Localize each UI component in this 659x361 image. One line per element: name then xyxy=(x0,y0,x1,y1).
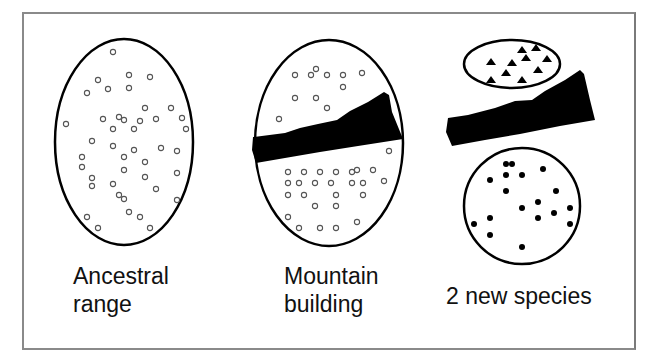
individual-marker xyxy=(501,69,511,76)
individual-marker xyxy=(89,175,94,180)
individual-marker xyxy=(89,183,94,188)
individual-marker xyxy=(179,115,184,120)
individual-marker xyxy=(487,232,493,238)
individual-marker xyxy=(503,172,509,178)
individual-marker xyxy=(317,169,322,174)
individual-marker xyxy=(126,209,131,214)
label-line: Ancestral xyxy=(73,262,169,290)
individual-marker xyxy=(285,169,290,174)
individual-marker xyxy=(507,59,517,66)
individual-marker xyxy=(340,84,345,89)
individual-marker xyxy=(540,166,546,172)
individual-marker xyxy=(174,170,179,175)
individual-marker xyxy=(276,116,281,121)
individual-marker xyxy=(131,147,136,152)
individual-marker xyxy=(359,70,364,75)
individual-marker xyxy=(313,95,318,100)
individual-marker xyxy=(126,72,131,77)
individual-marker xyxy=(121,154,126,159)
ancestral-range-panel xyxy=(55,39,193,245)
individual-marker xyxy=(137,214,142,219)
new-species-panel xyxy=(446,40,595,264)
individual-marker xyxy=(95,77,100,82)
individual-marker xyxy=(79,164,84,169)
individual-marker xyxy=(285,192,290,197)
label-line: range xyxy=(73,290,169,318)
individual-marker xyxy=(519,205,525,211)
individual-marker xyxy=(340,72,345,77)
individual-marker xyxy=(142,159,147,164)
individual-marker xyxy=(110,143,115,148)
individual-marker xyxy=(503,188,509,194)
individual-marker xyxy=(126,85,131,90)
individual-marker xyxy=(317,225,322,230)
individual-marker xyxy=(333,192,338,197)
individual-marker xyxy=(517,46,527,53)
individual-marker xyxy=(519,172,525,178)
individual-marker xyxy=(292,72,297,77)
individual-marker xyxy=(354,219,359,224)
individual-marker xyxy=(89,138,94,143)
label-line: Mountain xyxy=(284,262,379,290)
individual-marker xyxy=(292,95,297,100)
individual-marker xyxy=(168,105,173,110)
individual-marker xyxy=(333,203,338,208)
individual-marker xyxy=(147,74,152,79)
individual-marker xyxy=(487,215,493,221)
individual-marker xyxy=(333,225,338,230)
individual-marker xyxy=(142,105,147,110)
individual-marker xyxy=(324,105,329,110)
individual-marker xyxy=(521,54,531,61)
individual-marker xyxy=(360,192,365,197)
individual-marker xyxy=(324,72,329,77)
individual-marker xyxy=(116,192,121,197)
individual-marker xyxy=(567,221,573,227)
individual-marker xyxy=(567,205,573,211)
individual-marker xyxy=(471,221,477,227)
individual-marker xyxy=(137,118,142,123)
individual-marker xyxy=(535,199,541,205)
individual-marker xyxy=(100,116,105,121)
individual-marker xyxy=(551,210,557,216)
individual-marker xyxy=(333,169,338,174)
individual-marker xyxy=(535,215,541,221)
individual-marker xyxy=(312,180,317,185)
individual-marker xyxy=(63,121,68,126)
individual-marker xyxy=(285,180,290,185)
mountain-building-panel xyxy=(252,40,403,246)
panel-label-new-species: 2 new species xyxy=(446,282,592,310)
individual-marker xyxy=(84,214,89,219)
individual-marker xyxy=(147,225,152,230)
individual-marker xyxy=(153,116,158,121)
individual-marker xyxy=(95,225,100,230)
individual-marker xyxy=(308,72,313,77)
individual-marker xyxy=(110,126,115,131)
individual-marker xyxy=(153,186,158,191)
individual-marker xyxy=(354,167,359,172)
individual-marker xyxy=(301,169,306,174)
individual-marker xyxy=(105,86,110,91)
individual-marker xyxy=(296,225,301,230)
individual-marker xyxy=(79,154,84,159)
individual-marker xyxy=(285,214,290,219)
individual-marker xyxy=(553,188,559,194)
individual-marker xyxy=(370,167,375,172)
individual-marker xyxy=(533,66,543,73)
individual-marker xyxy=(386,148,391,153)
individual-marker xyxy=(360,180,365,185)
individual-marker xyxy=(121,117,126,122)
individual-marker xyxy=(131,126,136,131)
individual-marker xyxy=(517,76,527,83)
ancestral-population xyxy=(63,49,188,230)
panel-label-mountain: Mountain building xyxy=(284,262,379,318)
individual-marker xyxy=(116,114,121,119)
individual-marker xyxy=(312,203,317,208)
individual-marker xyxy=(519,244,525,250)
individual-marker xyxy=(486,58,496,65)
individual-marker xyxy=(110,49,115,54)
individual-marker xyxy=(84,90,89,95)
panel-label-ancestral: Ancestral range xyxy=(73,262,169,318)
species-a-population xyxy=(486,44,552,83)
individual-marker xyxy=(110,181,115,186)
species-b-population xyxy=(471,161,573,250)
